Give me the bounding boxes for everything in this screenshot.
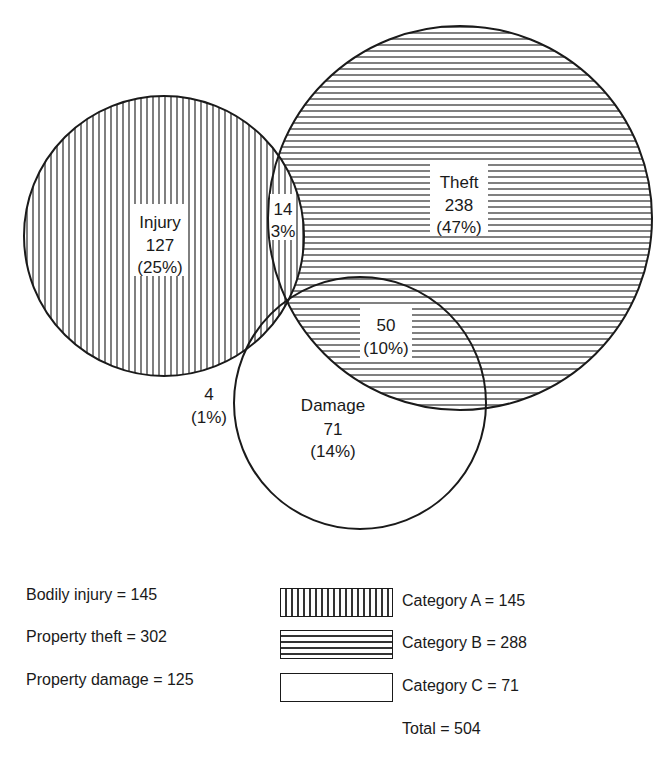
injury-damage-percent: (1%) <box>191 408 227 427</box>
injury-damage-count: 4 <box>204 385 213 404</box>
category-b-label: Category B = 288 <box>402 634 527 652</box>
category-a-swatch <box>280 588 393 617</box>
injury-label: Injury <box>139 213 181 232</box>
injury-theft-count: 14 <box>274 200 293 219</box>
venn-diagram: Injury 127 (25%) Theft 238 (47%) 14 3% 5… <box>0 0 664 560</box>
theft-damage-count: 50 <box>377 316 396 335</box>
category-c-swatch <box>280 673 393 702</box>
theft-label: Theft <box>440 173 479 192</box>
injury-theft-percent: 3% <box>271 222 296 241</box>
property-damage-total: Property damage = 125 <box>26 672 194 688</box>
injury-percent: (25%) <box>137 258 182 277</box>
damage-count: 71 <box>324 420 343 439</box>
injury-count: 127 <box>146 236 174 255</box>
property-theft-total: Property theft = 302 <box>26 629 167 645</box>
category-c-label: Category C = 71 <box>402 677 519 695</box>
damage-label: Damage <box>301 396 365 415</box>
category-a-label: Category A = 145 <box>402 592 525 610</box>
bodily-injury-total: Bodily injury = 145 <box>26 587 157 603</box>
theft-percent: (47%) <box>436 218 481 237</box>
category-legend: Category A = 145 Category B = 288 Catego… <box>280 587 640 757</box>
theft-count: 238 <box>445 196 473 215</box>
grand-total: Total = 504 <box>402 720 481 738</box>
damage-percent: (14%) <box>310 442 355 461</box>
theft-damage-percent: (10%) <box>363 339 408 358</box>
category-b-swatch <box>280 630 393 659</box>
